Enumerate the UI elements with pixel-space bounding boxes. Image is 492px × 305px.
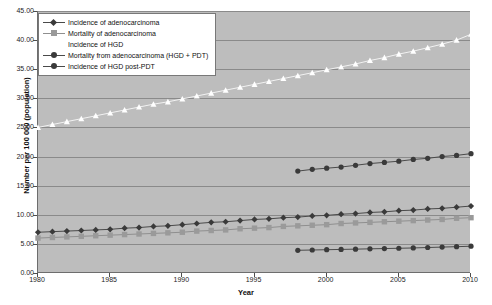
- x-tick-mark: [326, 273, 327, 277]
- x-axis-tick: 1990: [161, 276, 201, 284]
- x-axis-tick: 1995: [234, 276, 274, 284]
- data-point: [410, 207, 416, 213]
- data-point: [281, 224, 286, 229]
- y-tick-mark: [33, 127, 37, 128]
- data-point: [425, 217, 430, 222]
- legend-label: Mortality from adenocarcinoma (HGD + PDT…: [65, 51, 208, 61]
- data-point: [295, 169, 300, 174]
- x-axis-tick: 2000: [306, 276, 346, 284]
- y-tick-mark: [33, 98, 37, 99]
- x-tick-mark: [470, 273, 471, 277]
- data-point: [439, 205, 445, 211]
- chart-legend[interactable]: Incidence of adenocarcinomaMortality of …: [38, 13, 216, 76]
- data-point: [468, 215, 473, 220]
- data-point: [468, 244, 473, 249]
- data-point: [425, 206, 431, 212]
- legend-item-4[interactable]: Incidence of HGD post-PDT: [43, 61, 208, 72]
- data-point: [396, 208, 402, 214]
- data-point: [208, 219, 214, 225]
- data-point: [339, 164, 344, 169]
- y-axis-tick: 45.00: [0, 7, 34, 15]
- y-tick-mark: [33, 40, 37, 41]
- data-point: [324, 247, 329, 252]
- data-point: [468, 203, 474, 209]
- x-tick-mark: [109, 273, 110, 277]
- data-point: [439, 217, 444, 222]
- data-point: [309, 213, 315, 219]
- y-axis-tick: 40.00: [0, 36, 34, 44]
- data-point: [93, 227, 99, 233]
- data-point: [35, 235, 40, 240]
- y-axis-tick: 5.00: [0, 240, 34, 248]
- data-point: [353, 220, 358, 225]
- data-point: [440, 154, 445, 159]
- data-point: [382, 246, 387, 251]
- legend-label: Incidence of adenocarcinoma: [65, 18, 159, 28]
- data-point: [295, 223, 300, 228]
- data-point: [295, 248, 300, 253]
- legend-marker-icon: [43, 28, 65, 39]
- data-point: [223, 219, 229, 225]
- data-point: [440, 244, 445, 249]
- data-point: [324, 212, 330, 218]
- data-point: [136, 224, 142, 230]
- data-point: [136, 231, 141, 236]
- data-point: [64, 234, 69, 239]
- y-tick-mark: [33, 11, 37, 12]
- y-tick-mark: [33, 157, 37, 158]
- y-tick-mark: [33, 69, 37, 70]
- data-point: [411, 157, 416, 162]
- data-point: [425, 156, 430, 161]
- data-point: [454, 216, 459, 221]
- legend-item-2[interactable]: Incidence of HGD: [43, 39, 208, 50]
- data-point: [367, 220, 372, 225]
- data-point: [367, 209, 373, 215]
- data-point: [310, 223, 315, 228]
- data-point: [454, 37, 460, 43]
- legend-marker-icon: [43, 39, 65, 50]
- data-point: [180, 230, 185, 235]
- data-point: [209, 228, 214, 233]
- data-point: [280, 215, 286, 221]
- data-point: [396, 218, 401, 223]
- series-4: [295, 244, 473, 253]
- data-point: [353, 247, 358, 252]
- data-point: [165, 230, 170, 235]
- data-point: [310, 167, 315, 172]
- data-point: [324, 166, 329, 171]
- data-point: [382, 219, 387, 224]
- data-point: [49, 229, 55, 235]
- data-point: [353, 163, 358, 168]
- data-point: [411, 218, 416, 223]
- data-point: [194, 220, 200, 226]
- x-tick-mark: [181, 273, 182, 277]
- legend-item-1[interactable]: Mortality of adenocarcinoma: [43, 28, 208, 39]
- data-point: [468, 31, 474, 37]
- data-point: [295, 214, 301, 220]
- series-3: [295, 151, 473, 174]
- legend-marker-icon: [43, 17, 65, 28]
- data-point: [396, 159, 401, 164]
- legend-label: Mortality of adenocarcinoma: [65, 29, 156, 39]
- data-point: [382, 160, 387, 165]
- data-point: [339, 247, 344, 252]
- data-point: [35, 229, 41, 235]
- data-point: [338, 211, 344, 217]
- data-point: [310, 247, 315, 252]
- data-point: [150, 223, 156, 229]
- legend-item-0[interactable]: Incidence of adenocarcinoma: [43, 17, 208, 28]
- data-point: [367, 161, 372, 166]
- x-axis-title: Year: [0, 288, 492, 297]
- data-point: [78, 227, 84, 233]
- data-point: [338, 221, 343, 226]
- legend-item-3[interactable]: Mortality from adenocarcinoma (HGD + PDT…: [43, 50, 208, 61]
- x-axis-tick: 1985: [89, 276, 129, 284]
- x-tick-mark: [398, 273, 399, 277]
- legend-label: Incidence of HGD post-PDT: [65, 62, 155, 72]
- legend-marker-icon: [43, 50, 65, 61]
- y-tick-mark: [33, 186, 37, 187]
- chart-container: 0.005.0010.0015.0020.0025.0030.0035.0040…: [0, 0, 492, 305]
- data-point: [93, 233, 98, 238]
- data-point: [468, 151, 473, 156]
- data-point: [251, 216, 257, 222]
